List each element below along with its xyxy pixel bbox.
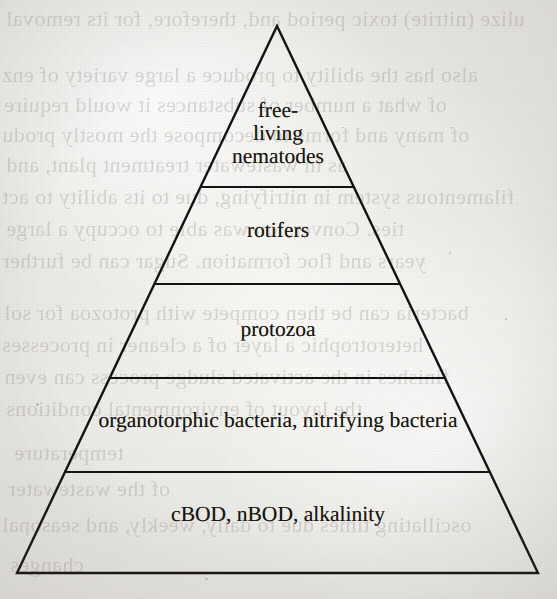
figure-page: ulize (nitrite) toxic period and, theref…: [0, 0, 557, 599]
paper-vignette: [0, 0, 557, 599]
